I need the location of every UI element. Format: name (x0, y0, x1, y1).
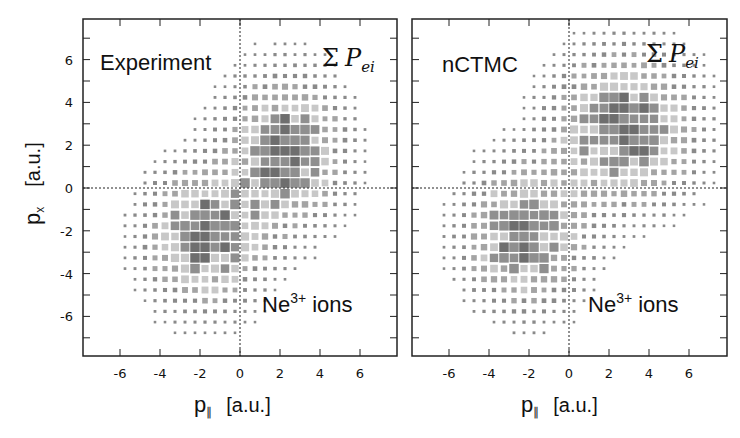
heatmap-cell (290, 146, 300, 156)
heatmap-cell (561, 255, 567, 261)
heatmap-cell (323, 85, 327, 89)
heatmap-cell (502, 299, 506, 303)
heatmap-cell (200, 221, 210, 231)
heatmap-cell (683, 203, 686, 206)
heatmap-cell (224, 331, 227, 334)
heatmap-cell (499, 221, 509, 231)
heatmap-cell (592, 63, 597, 68)
heatmap-cell (520, 200, 528, 208)
heatmap-cell (602, 246, 605, 249)
heatmap-cell (572, 53, 575, 56)
heatmap-cell (492, 288, 496, 292)
heatmap-cell (323, 213, 327, 217)
heatmap-cell (144, 299, 147, 302)
heatmap-cell (194, 331, 197, 334)
heatmap-cell (173, 288, 178, 293)
heatmap-cell (531, 287, 537, 293)
heatmap-cell (231, 243, 239, 251)
heatmap-cell (283, 256, 287, 260)
heatmap-cell (602, 213, 606, 217)
heatmap-cell (172, 277, 178, 283)
heatmap-cell (172, 180, 178, 186)
heatmap-cell (471, 266, 476, 271)
heatmap-cell (270, 157, 279, 166)
heatmap-cell (561, 127, 567, 133)
heatmap-cell (292, 201, 298, 207)
heatmap-cell (672, 203, 676, 207)
x-tick-label: 4 (645, 366, 653, 381)
heatmap-cell (580, 136, 589, 145)
heatmap-cell (622, 53, 626, 57)
x-tick-label: -6 (114, 366, 127, 381)
heatmap-cell (262, 222, 269, 229)
heatmap-cell (233, 310, 236, 313)
heatmap-cell (641, 73, 646, 78)
heatmap-cell (549, 243, 558, 252)
heatmap-cell (443, 246, 446, 249)
heatmap-cell (650, 147, 659, 156)
heatmap-cell (533, 75, 536, 78)
heatmap-cell (194, 128, 197, 131)
heatmap-cell (551, 276, 557, 282)
heatmap-cell (472, 192, 476, 196)
heatmap-cell (552, 117, 556, 121)
heatmap-cell (322, 105, 328, 111)
heatmap-cell (212, 180, 219, 187)
heatmap-cell (223, 298, 227, 302)
heatmap-cell (532, 138, 536, 142)
heatmap-cell (303, 53, 306, 56)
heatmap-cell (681, 126, 687, 132)
heatmap-cell (244, 321, 247, 324)
heatmap-cell (562, 310, 565, 313)
heatmap-cell (190, 264, 200, 274)
heatmap-cell (561, 137, 568, 144)
y-axis-label: px[a.u.] (20, 142, 47, 225)
heatmap-cell (171, 200, 179, 208)
heatmap-cell (580, 168, 588, 176)
heatmap-cell (263, 84, 268, 89)
heatmap-cell (603, 32, 606, 35)
heatmap-cell (303, 84, 307, 88)
heatmap-cell (571, 233, 578, 240)
heatmap-cell (502, 149, 505, 152)
heatmap-cell (673, 214, 676, 217)
heatmap-cell (703, 75, 706, 78)
heatmap-cell (173, 160, 176, 163)
heatmap-cell (353, 138, 357, 142)
heatmap-cell (540, 232, 548, 240)
heatmap-cell (530, 265, 537, 272)
heatmap-cell (194, 118, 197, 121)
heatmap-cell (529, 242, 539, 252)
heatmap-cell (190, 210, 200, 220)
heatmap-cell (550, 211, 559, 220)
heatmap-cell (311, 157, 320, 166)
heatmap-cell (154, 160, 157, 163)
heatmap-cell (692, 74, 695, 77)
ion-label: Ne3+ ions (588, 290, 679, 317)
heatmap-cell (602, 63, 607, 68)
heatmap-cell (501, 265, 507, 271)
heatmap-cell (540, 222, 549, 231)
heatmap-cell (632, 42, 635, 45)
heatmap-cell (221, 254, 229, 262)
heatmap-cell (260, 146, 270, 156)
heatmap-cell (713, 160, 716, 163)
heatmap-cell (693, 203, 696, 206)
heatmap-cell (212, 190, 219, 197)
heatmap-cell (293, 256, 296, 259)
heatmap-cell (220, 242, 230, 252)
heatmap-cell (702, 138, 706, 142)
heatmap-cell (283, 53, 286, 56)
heatmap-cell (253, 64, 256, 67)
heatmap-cell (164, 321, 167, 324)
x-tick-label: -2 (523, 366, 536, 381)
heatmap-cell (622, 202, 627, 207)
x-tick-label: 6 (685, 366, 693, 381)
heatmap-cell (622, 213, 626, 217)
heatmap-cell (190, 253, 200, 263)
heatmap-cell (220, 210, 230, 220)
heatmap-cell (501, 180, 507, 186)
heatmap-cell (280, 114, 290, 124)
heatmap-cell (270, 168, 280, 178)
heatmap-cell (560, 211, 568, 219)
